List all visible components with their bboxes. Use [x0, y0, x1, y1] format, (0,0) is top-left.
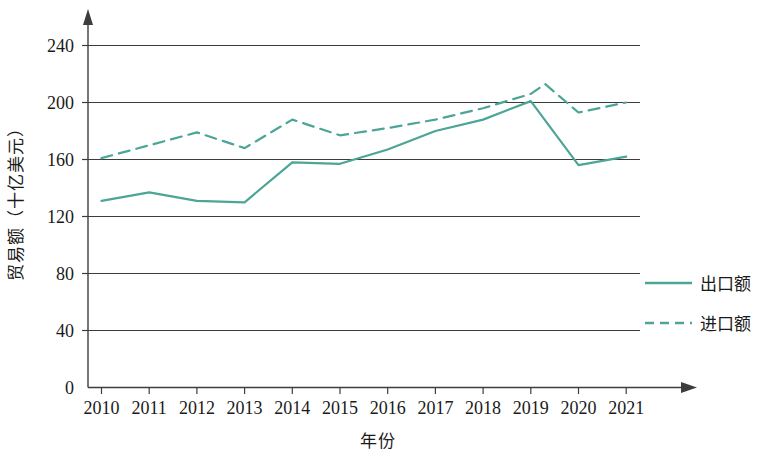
x-tick-label-2012: 2012	[179, 398, 215, 418]
x-tick-labels: 2010 2011 2012 2013 2014 2015 2016 2017 …	[84, 398, 645, 418]
x-tick-label-2016: 2016	[370, 398, 406, 418]
y-tick-label-80: 80	[56, 264, 74, 284]
y-tick-label-0: 0	[65, 378, 74, 398]
x-tick-label-2020: 2020	[561, 398, 597, 418]
x-tick-label-2019: 2019	[513, 398, 549, 418]
y-tick-label-160: 160	[47, 150, 74, 170]
y-axis-title: 贸易额（十亿美元）	[6, 119, 26, 281]
x-tick-label-2021: 2021	[608, 398, 644, 418]
x-tick-label-2014: 2014	[274, 398, 310, 418]
x-tick-label-2018: 2018	[465, 398, 501, 418]
legend: 出口额 进口额	[645, 274, 751, 334]
chart-figure: 240 200 160 120 80 40 0 2010 2011	[0, 0, 759, 455]
y-tick-labels: 240 200 160 120 80 40 0	[47, 36, 74, 398]
y-tick-label-120: 120	[47, 207, 74, 227]
series-line-export	[102, 101, 627, 202]
x-axis-title: 年份	[360, 431, 396, 451]
y-tick-marks	[82, 46, 88, 331]
x-tick-label-2010: 2010	[84, 398, 120, 418]
y-tick-label-240: 240	[47, 36, 74, 56]
x-axis	[88, 382, 697, 393]
line-chart-canvas: 240 200 160 120 80 40 0 2010 2011	[0, 0, 759, 455]
legend-label-export: 出口额	[700, 274, 751, 294]
x-tick-label-2015: 2015	[322, 398, 358, 418]
x-tick-marks	[102, 388, 627, 395]
x-tick-label-2013: 2013	[227, 398, 263, 418]
gridlines	[88, 46, 640, 331]
legend-label-import: 进口额	[700, 314, 751, 334]
x-tick-label-2017: 2017	[417, 398, 453, 418]
y-tick-label-200: 200	[47, 93, 74, 113]
series-line-import	[102, 84, 627, 158]
x-tick-label-2011: 2011	[132, 398, 167, 418]
y-tick-label-40: 40	[56, 321, 74, 341]
